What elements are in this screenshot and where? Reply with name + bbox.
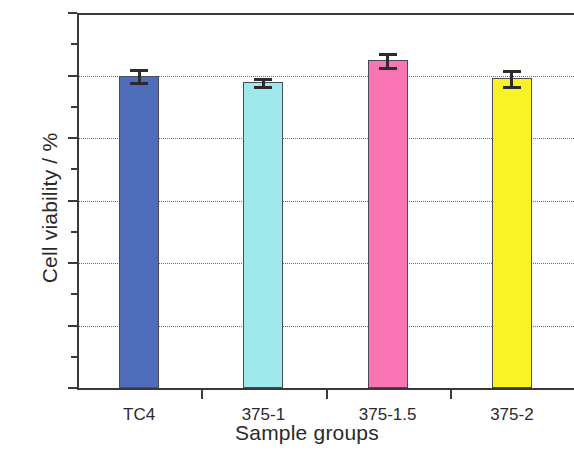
plot-frame-left — [77, 13, 79, 390]
bar — [119, 76, 159, 389]
bar — [243, 82, 283, 388]
error-bar-cap-upper — [130, 69, 148, 72]
y-tick-major — [68, 387, 77, 389]
y-tick-major — [68, 200, 77, 202]
error-bar-cap-upper — [254, 78, 272, 81]
y-tick-major — [68, 12, 77, 14]
y-axis-title: Cell viability / % — [38, 63, 62, 353]
error-bar-cap-lower — [503, 86, 521, 89]
error-bar-cap-lower — [379, 67, 397, 70]
error-bar-cap-upper — [379, 53, 397, 56]
error-bar-cap-lower — [130, 82, 148, 85]
error-bar-cap-lower — [254, 86, 272, 89]
y-tick-major — [68, 262, 77, 264]
y-tick-minor — [71, 106, 77, 108]
x-tick-label: 375-2 — [452, 405, 572, 425]
x-tick — [326, 390, 328, 399]
x-tick — [201, 390, 203, 399]
plot-frame-top — [77, 13, 574, 15]
x-tick-label: TC4 — [79, 405, 199, 425]
x-tick-label: 375-1 — [203, 405, 323, 425]
plot-area: 020406080100120 TC4375-1375-1.5375-2 — [77, 13, 574, 390]
bar — [492, 78, 532, 388]
chart-figure: Cell viability / % Sample groups 0204060… — [0, 0, 574, 453]
y-tick-minor — [71, 168, 77, 170]
x-tick — [450, 390, 452, 399]
y-tick-minor — [71, 293, 77, 295]
y-tick-minor — [71, 356, 77, 358]
bar — [368, 60, 408, 388]
error-bar-cap-upper — [503, 70, 521, 73]
x-tick-label: 375-1.5 — [328, 405, 448, 425]
y-tick-minor — [71, 43, 77, 45]
y-tick-major — [68, 75, 77, 77]
y-tick-major — [68, 325, 77, 327]
y-tick-minor — [71, 231, 77, 233]
y-tick-major — [68, 137, 77, 139]
